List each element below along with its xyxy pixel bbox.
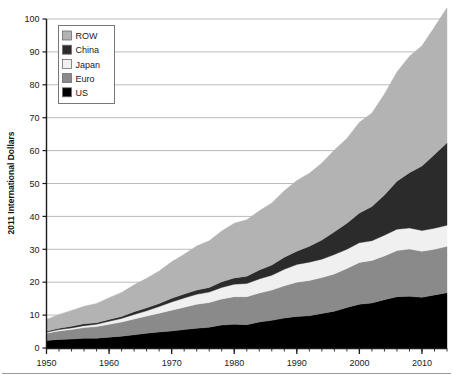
y-tick-label-10: 10	[29, 310, 39, 320]
y-tick-label-60: 60	[29, 146, 39, 156]
y-tick-label-50: 50	[29, 179, 39, 189]
y-tick-label-20: 20	[29, 277, 39, 287]
y-tick-label-80: 80	[29, 80, 39, 90]
legend-swatch-us	[63, 88, 72, 97]
stacked-area-chart: 0102030405060708090100 19501960197019801…	[0, 0, 453, 383]
y-tick-label-100: 100	[24, 14, 39, 24]
legend-swatch-euro	[63, 74, 72, 83]
y-tick-label-40: 40	[29, 212, 39, 222]
chart-figure: 0102030405060708090100 19501960197019801…	[0, 0, 453, 383]
x-tick-label-1950: 1950	[36, 358, 56, 368]
legend-swatch-china	[63, 45, 72, 54]
x-tick-label-1970: 1970	[162, 358, 182, 368]
legend-label-japan: Japan	[76, 60, 101, 70]
y-tick-label-30: 30	[29, 245, 39, 255]
y-tick-label-70: 70	[29, 113, 39, 123]
legend-swatch-row	[63, 31, 72, 40]
legend-label-us: US	[76, 88, 89, 98]
chart-legend: ROWChinaJapanEuroUS	[59, 26, 115, 104]
y-tick-label-90: 90	[29, 47, 39, 57]
legend-label-row: ROW	[76, 31, 99, 41]
x-tick-label-2010: 2010	[412, 358, 432, 368]
y-axis-title: 2011 International Dollars	[6, 131, 16, 234]
legend-label-euro: Euro	[76, 74, 95, 84]
legend-swatch-japan	[63, 59, 72, 68]
legend-label-china: China	[76, 45, 100, 55]
x-tick-label-1960: 1960	[99, 358, 119, 368]
x-tick-label-1980: 1980	[224, 358, 244, 368]
x-tick-label-2000: 2000	[349, 358, 369, 368]
y-tick-label-0: 0	[34, 343, 39, 353]
x-tick-label-1990: 1990	[287, 358, 307, 368]
